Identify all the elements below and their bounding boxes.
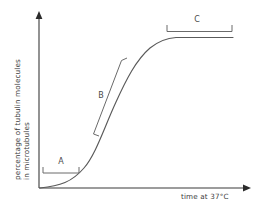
- tubulin-polymerization-figure: A B C time at 37°C percentage of tubulin…: [0, 0, 261, 208]
- polymerization-curve: [40, 38, 233, 189]
- y-axis-label-line-2: in microtubules: [22, 20, 31, 180]
- plot-area: A B C: [0, 0, 261, 208]
- x-axis-label: time at 37°C: [181, 192, 229, 201]
- y-axis-label-line-1: percentage of tubulin molecules: [13, 20, 22, 180]
- bracket-a-label: A: [58, 157, 64, 166]
- bracket-c: [167, 25, 232, 32]
- x-axis-arrow-icon: [243, 185, 251, 192]
- bracket-b-label: B: [98, 91, 104, 100]
- bracket-a: [43, 167, 79, 173]
- y-axis-label: percentage of tubulin molecules in micro…: [13, 20, 31, 180]
- bracket-c-label: C: [194, 15, 200, 24]
- y-axis-arrow-icon: [36, 11, 43, 19]
